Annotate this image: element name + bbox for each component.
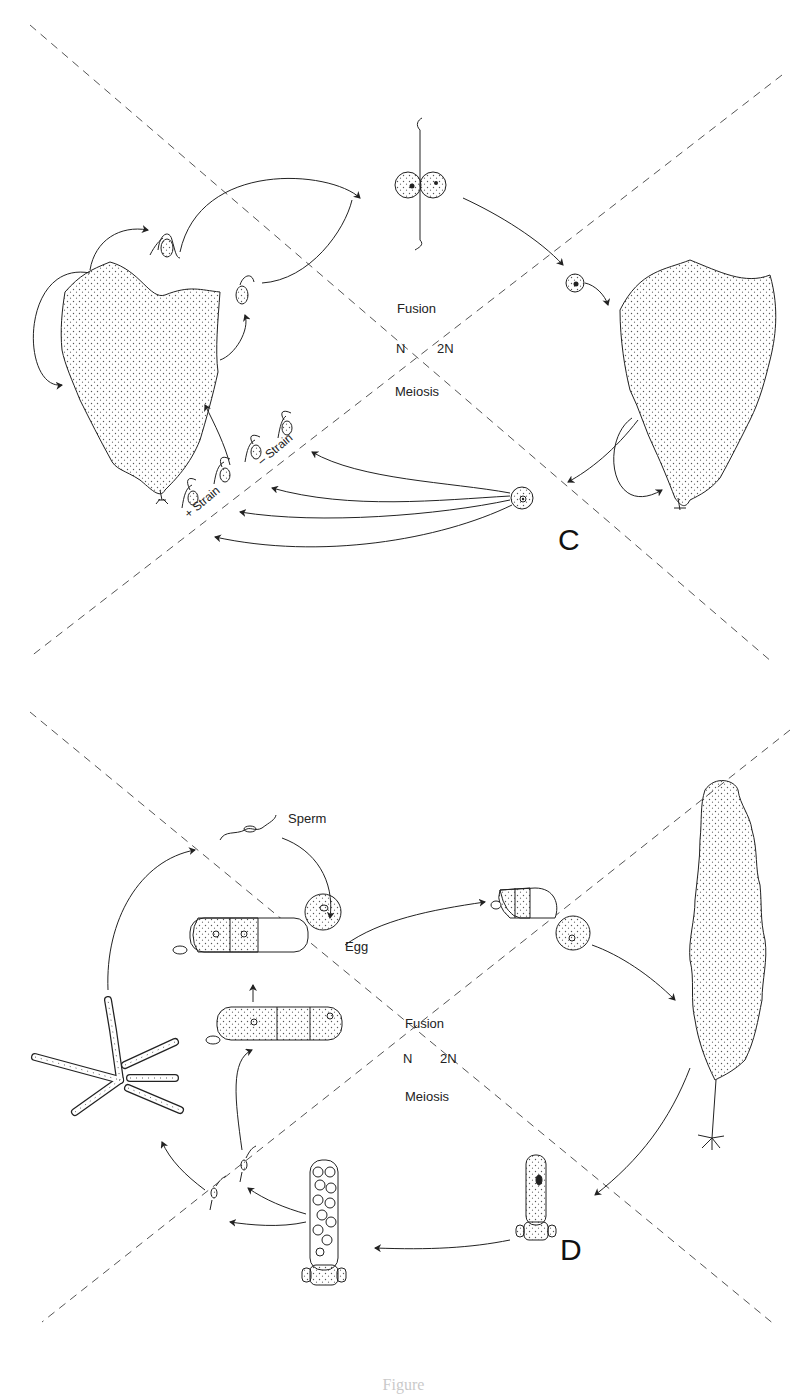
diploid-label-c: 2N <box>437 342 454 355</box>
young-female-gametophyte <box>206 1007 342 1044</box>
haploid-thallus-left <box>61 262 220 494</box>
diploid-thallus-right <box>620 260 776 506</box>
zoosporangium <box>511 487 533 509</box>
panel-letter-c: C <box>558 525 580 555</box>
female-gametophyte-with-egg <box>173 894 341 954</box>
egg <box>305 894 341 930</box>
panel-c <box>30 25 782 662</box>
fusion-label-d: Fusion <box>405 1017 444 1030</box>
diploid-label-d: 2N <box>440 1052 457 1065</box>
sporangium <box>516 1155 556 1240</box>
meiosis-label-c: Meiosis <box>395 385 439 398</box>
zoospores <box>210 1146 256 1210</box>
branched-gametophyte <box>35 1000 180 1112</box>
fusion-label-c: Fusion <box>397 302 436 315</box>
sporophyte-thallus <box>690 781 766 1080</box>
fusing-gametes <box>395 118 446 250</box>
figure-caption: Figure <box>0 1376 807 1394</box>
egg-label: Egg <box>345 940 368 953</box>
gamete <box>161 239 173 257</box>
gamete <box>236 286 248 304</box>
sperm-label: Sperm <box>288 812 326 825</box>
young-sporophyte <box>491 888 590 950</box>
meiosis-label-d: Meiosis <box>405 1090 449 1103</box>
mature-sporangium-with-zoospores <box>302 1160 346 1285</box>
panel-letter-d: D <box>560 1235 582 1265</box>
haploid-label-d: N <box>403 1052 412 1065</box>
haploid-label-c: N <box>396 342 405 355</box>
